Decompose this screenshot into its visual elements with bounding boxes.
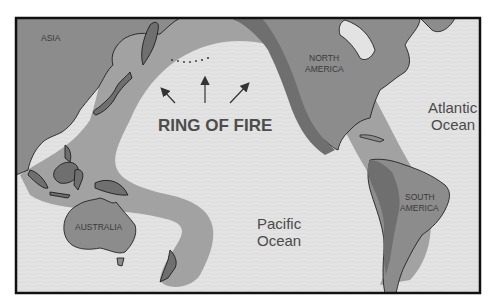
label-atlantic-1: Atlantic [428, 99, 478, 116]
label-north-america-2: AMERICA [305, 64, 344, 74]
label-pacific-1: Pacific [257, 215, 302, 232]
label-australia: AUSTRALIA [75, 222, 123, 232]
label-atlantic-2: Ocean [431, 116, 475, 133]
label-pacific-2: Ocean [257, 232, 301, 249]
label-south-america-2: AMERICA [400, 203, 439, 213]
label-ring-of-fire: RING OF FIRE [158, 116, 272, 135]
label-north-america-1: NORTH [309, 53, 339, 63]
ring-of-fire-map: ASIA NORTH AMERICA SOUTH AMERICA AUSTRAL… [0, 0, 497, 307]
label-asia: ASIA [41, 33, 61, 43]
label-south-america-1: SOUTH [405, 192, 435, 202]
